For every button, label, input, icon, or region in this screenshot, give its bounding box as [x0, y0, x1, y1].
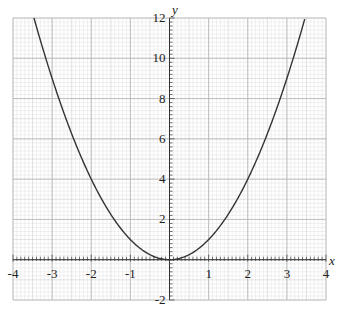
x-tick-label: 2	[245, 266, 252, 281]
x-tick-label: 3	[284, 266, 291, 281]
x-tick-label: -1	[125, 266, 136, 281]
x-axis-label: x	[328, 253, 335, 268]
y-tick-label: 12	[153, 10, 166, 25]
x-tick-label: 1	[205, 266, 212, 281]
y-tick-label: 4	[159, 171, 166, 186]
y-tick-label: 6	[159, 131, 166, 146]
y-tick-label: 8	[159, 91, 166, 106]
y-tick-label: -2	[155, 292, 166, 307]
y-axis-label: y	[170, 2, 178, 17]
x-tick-label: -4	[8, 266, 19, 281]
x-tick-label: -2	[86, 266, 97, 281]
parabola-chart: -4-3-2-11234-224681012 x y	[0, 0, 338, 320]
y-tick-label: 10	[153, 50, 166, 65]
x-tick-label: -3	[47, 266, 58, 281]
y-tick-label: 2	[159, 211, 166, 226]
